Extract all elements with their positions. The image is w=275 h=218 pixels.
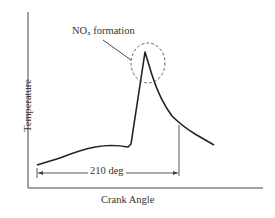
x-axis-label: Crank Angle — [101, 194, 154, 205]
y-axis-label: Temperature — [22, 71, 33, 141]
chart-canvas — [0, 0, 275, 218]
annotation-leader-line — [103, 40, 131, 60]
annotation-rest: formation — [91, 25, 135, 36]
arrow-left-icon — [38, 171, 43, 175]
temperature-curve — [37, 52, 214, 165]
nox-annotation: NOx formation — [72, 25, 135, 37]
dimension-label: 210 deg — [88, 165, 126, 176]
arrow-right-icon — [173, 171, 178, 175]
annotation-main: NO — [72, 25, 87, 36]
